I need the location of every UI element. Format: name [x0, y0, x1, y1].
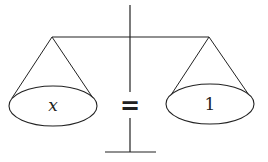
left-pan-label: x [48, 95, 58, 115]
left-pan: x [9, 37, 97, 126]
right-pan: 1 [166, 37, 254, 124]
equals-sign: = [120, 92, 140, 120]
balance-scale-diagram: x 1 = [0, 0, 268, 162]
right-pan-label: 1 [205, 94, 216, 114]
